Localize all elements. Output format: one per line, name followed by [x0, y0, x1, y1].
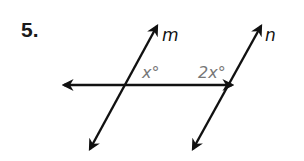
parallel-lines-diagram: m n x° 2x°	[0, 0, 304, 161]
line-m	[90, 26, 157, 149]
angle-m-label: x°	[141, 63, 159, 82]
line-n-label: n	[265, 25, 276, 45]
angle-n-label: 2x°	[198, 63, 226, 82]
line-n	[193, 26, 261, 149]
line-m-label: m	[162, 25, 179, 45]
